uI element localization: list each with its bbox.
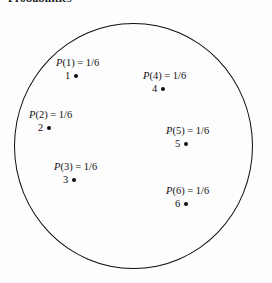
outcome-5-probability-label: P(5) = 1/6 [166, 125, 209, 137]
outcome-1-point: 1 [56, 70, 99, 82]
outcome-6-equals: = [185, 185, 196, 196]
filled-dot-icon [184, 202, 188, 206]
outcome-6-probability-value: 1/6 [196, 185, 209, 196]
outcome-1-point-label: 1 [65, 70, 70, 81]
outcome-4-probability-value: 1/6 [173, 70, 186, 81]
outcome-3-point-label: 3 [63, 174, 68, 185]
outcome-1-probability-label: P(1) = 1/6 [56, 57, 99, 69]
outcome-2-equals: = [48, 109, 59, 120]
filled-dot-icon [74, 74, 78, 78]
outcome-6-p-argument: (6) [172, 185, 184, 196]
outcome-1: P(1) = 1/6 1 [56, 57, 99, 82]
outcome-1-p-argument: (1) [62, 57, 74, 68]
outcome-2-probability-value: 1/6 [59, 109, 72, 120]
outcome-6-point: 6 [166, 198, 209, 210]
outcome-5-equals: = [185, 125, 196, 136]
outcome-2-point-label: 2 [38, 122, 43, 133]
outcome-5-point: 5 [166, 138, 209, 150]
outcome-2-probability-label: P(2) = 1/6 [29, 109, 72, 121]
sample-space-circle [14, 23, 253, 269]
filled-dot-icon [161, 87, 165, 91]
outcome-3-point: 3 [54, 174, 97, 186]
outcome-3-equals: = [73, 161, 84, 172]
outcome-1-equals: = [75, 57, 86, 68]
outcome-4-equals: = [162, 70, 173, 81]
outcome-3-p-argument: (3) [60, 161, 72, 172]
figure-title: Probabilities [8, 0, 72, 4]
filled-dot-icon [47, 126, 51, 130]
outcome-2: P(2) = 1/6 2 [29, 109, 72, 134]
filled-dot-icon [184, 142, 188, 146]
outcome-5-probability-value: 1/6 [196, 125, 209, 136]
outcome-1-probability-value: 1/6 [86, 57, 99, 68]
outcome-3: P(3) = 1/6 3 [54, 161, 97, 186]
probability-figure: Probabilities P(1) = 1/6 1 P(2) = 1/6 2 … [0, 0, 272, 283]
outcome-5: P(5) = 1/6 5 [166, 125, 209, 150]
outcome-2-point: 2 [29, 122, 72, 134]
outcome-4-p-argument: (4) [149, 70, 161, 81]
outcome-6-probability-label: P(6) = 1/6 [166, 185, 209, 197]
outcome-4: P(4) = 1/6 4 [143, 70, 186, 95]
outcome-2-p-argument: (2) [35, 109, 47, 120]
filled-dot-icon [72, 178, 76, 182]
outcome-6-point-label: 6 [175, 198, 180, 209]
outcome-3-probability-value: 1/6 [84, 161, 97, 172]
outcome-4-point-label: 4 [152, 83, 157, 94]
outcome-6: P(6) = 1/6 6 [166, 185, 209, 210]
outcome-5-p-argument: (5) [172, 125, 184, 136]
outcome-4-probability-label: P(4) = 1/6 [143, 70, 186, 82]
outcome-3-probability-label: P(3) = 1/6 [54, 161, 97, 173]
outcome-5-point-label: 5 [175, 138, 180, 149]
outcome-4-point: 4 [143, 83, 186, 95]
